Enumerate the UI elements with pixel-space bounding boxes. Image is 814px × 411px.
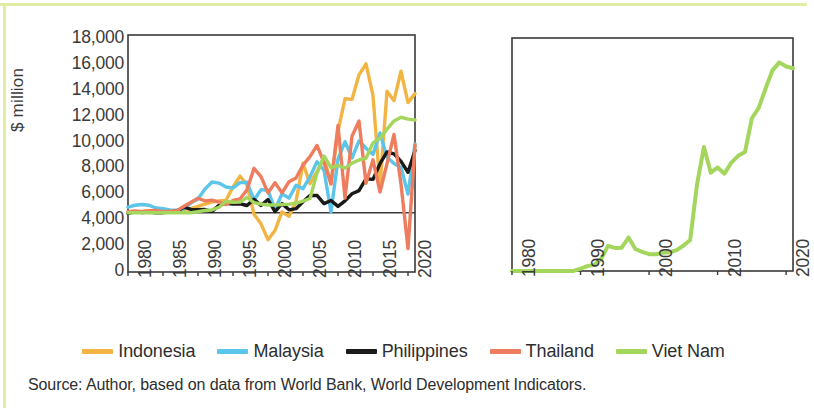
legend-label: Malaysia [253,341,323,362]
y-tick-label: 8,000 [81,158,124,176]
left-chart-plot [0,0,430,330]
left-chart-panel: $ million 30,00025,00020,00015,00010,000… [0,0,430,330]
x-tick-label: 2010 [725,239,746,277]
x-tick-label: 2010 [345,240,366,278]
y-tick-label: 16,000 [72,55,124,73]
y-tick-label: 12,000 [72,107,124,125]
x-tick-label: 2015 [380,240,401,278]
legend-swatch-icon [616,349,647,354]
y-tick-label: 18,000 [72,29,124,47]
x-tick-label: 1980 [135,240,156,278]
x-tick-label: 1990 [205,240,226,278]
legend-item-viet-nam[interactable]: Viet Nam [616,341,725,362]
y-tick-label: 10,000 [72,133,124,151]
legend-label: Indonesia [118,341,195,362]
x-tick-label: 1990 [588,239,609,277]
series-line-viet-nam [512,62,793,271]
right-chart-plot [425,0,807,330]
legend-item-indonesia[interactable]: Indonesia [82,341,195,362]
y-axis-title-left: $ million [8,22,28,132]
y-tick-label: 0 [114,262,124,280]
legend-swatch-icon [217,349,248,354]
y-tick-label: 14,000 [72,81,124,99]
legend-item-philippines[interactable]: Philippines [346,341,468,362]
y-tick-label: 4,000 [81,210,124,228]
legend-swatch-icon [82,349,113,354]
y-tick-label: 6,000 [81,184,124,202]
x-tick-label: 1985 [170,240,191,278]
legend-label: Viet Nam [652,341,725,362]
source-note: Source: Author, based on data from World… [28,376,586,394]
legend-swatch-icon [490,349,521,354]
x-tick-label: 2005 [310,240,331,278]
legend-label: Philippines [382,341,468,362]
x-tick-label: 2000 [275,240,296,278]
chart-panels: $ million 30,00025,00020,00015,00010,000… [0,0,807,330]
y-tick-label: 2,000 [81,236,124,254]
chart-legend: IndonesiaMalaysiaPhilippinesThailandViet… [0,332,807,370]
legend-item-thailand[interactable]: Thailand [490,341,594,362]
series-line-thailand [128,121,415,249]
x-tick-label: 1995 [240,240,261,278]
x-tick-label: 2000 [656,239,677,277]
legend-label: Thailand [526,341,594,362]
legend-item-malaysia[interactable]: Malaysia [217,341,323,362]
x-tick-label: 2020 [793,239,814,277]
right-chart-panel: 18,00016,00014,00012,00010,0008,0006,000… [425,0,807,330]
x-tick-label: 1980 [519,239,540,277]
legend-swatch-icon [346,349,377,354]
